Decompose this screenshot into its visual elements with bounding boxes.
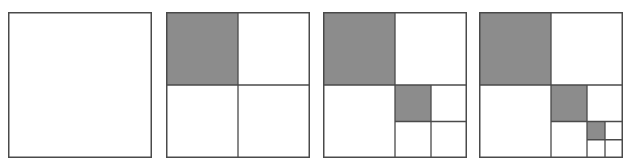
subdivision-panel-4 xyxy=(479,12,623,158)
shaded-quadrant xyxy=(551,85,587,122)
subdivision-panel-1 xyxy=(8,12,152,158)
shaded-quadrant xyxy=(323,12,395,85)
shaded-quadrant xyxy=(395,85,431,122)
panel-border xyxy=(9,13,152,158)
subdivision-panel-3 xyxy=(323,12,467,158)
shaded-quadrant xyxy=(587,122,605,140)
shaded-quadrant xyxy=(166,12,238,85)
shaded-quadrant xyxy=(479,12,551,85)
subdivision-panel-2 xyxy=(166,12,310,158)
